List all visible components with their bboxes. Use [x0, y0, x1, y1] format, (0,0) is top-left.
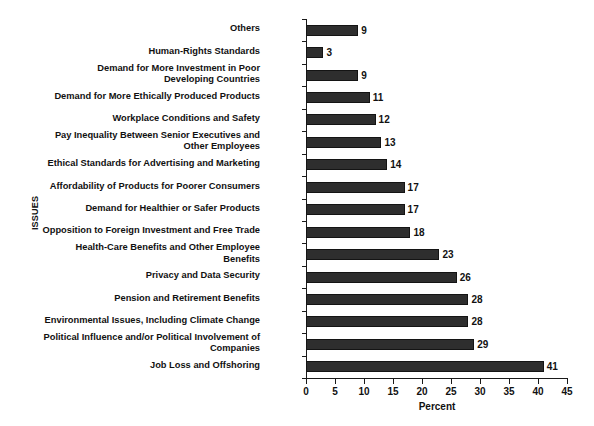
bar: [306, 294, 468, 305]
x-axis-title: Percent: [419, 401, 456, 412]
bar: [306, 227, 410, 238]
category-label: Human-Rights Standards: [0, 46, 260, 58]
y-tick: [302, 266, 306, 267]
bar-value-label: 26: [460, 272, 471, 283]
bar-value-label: 17: [408, 182, 419, 193]
y-tick: [302, 86, 306, 87]
x-tick: [451, 379, 452, 384]
y-tick: [302, 356, 306, 357]
y-tick: [302, 288, 306, 289]
x-tick: [393, 379, 394, 384]
category-label-line: Health-Care Benefits and Other Employee: [0, 242, 260, 254]
bar: [306, 159, 387, 170]
category-label: Workplace Conditions and Safety: [0, 113, 260, 125]
y-tick: [302, 221, 306, 222]
bar-value-label: 9: [361, 25, 367, 36]
x-tick-label: 5: [332, 386, 338, 397]
category-label-line: Pension and Retirement Benefits: [0, 293, 260, 305]
x-axis-line: [306, 378, 568, 379]
bar: [306, 137, 381, 148]
bar-value-label: 23: [442, 249, 453, 260]
bar-value-label: 11: [373, 92, 384, 103]
bar: [306, 114, 376, 125]
bar-value-label: 17: [408, 204, 419, 215]
category-label-line: Demand for More Investment in Poor: [0, 63, 260, 75]
x-tick: [509, 379, 510, 384]
y-tick: [302, 19, 306, 20]
bar-value-label: 18: [413, 227, 424, 238]
y-tick: [302, 41, 306, 42]
bar-value-label: 14: [390, 159, 401, 170]
bar-value-label: 28: [471, 294, 482, 305]
x-tick: [422, 379, 423, 384]
category-label-line: Privacy and Data Security: [0, 270, 260, 282]
category-label-line: Other Employees: [0, 141, 260, 153]
y-tick: [302, 243, 306, 244]
bar-value-label: 12: [379, 114, 390, 125]
bar: [306, 92, 370, 103]
y-tick: [302, 199, 306, 200]
category-label-line: Political Influence and/or Political Inv…: [0, 332, 260, 344]
bar: [306, 70, 358, 81]
category-label: Demand for Healthier or Safer Products: [0, 203, 260, 215]
category-label: Opposition to Foreign Investment and Fre…: [0, 225, 260, 237]
bar: [306, 272, 457, 283]
category-label-line: Workplace Conditions and Safety: [0, 113, 260, 125]
category-label-line: Environmental Issues, Including Climate …: [0, 315, 260, 327]
category-label-line: Human-Rights Standards: [0, 46, 260, 58]
category-label: Demand for More Investment in PoorDevelo…: [0, 63, 260, 86]
x-tick: [306, 379, 307, 384]
category-label-line: Pay Inequality Between Senior Executives…: [0, 130, 260, 142]
bar: [306, 361, 544, 372]
y-tick: [302, 131, 306, 132]
x-tick-label: 45: [561, 386, 572, 397]
category-label-line: Others: [0, 23, 260, 35]
category-label: Demand for More Ethically Produced Produ…: [0, 91, 260, 103]
bar-value-label: 41: [547, 361, 558, 372]
x-tick: [567, 379, 568, 384]
x-tick-label: 10: [358, 386, 369, 397]
x-tick-label: 0: [303, 386, 309, 397]
category-label: Privacy and Data Security: [0, 270, 260, 282]
category-label: Ethical Standards for Advertising and Ma…: [0, 158, 260, 170]
x-tick: [480, 379, 481, 384]
category-label-line: Benefits: [0, 254, 260, 266]
x-tick-label: 40: [532, 386, 543, 397]
x-tick: [364, 379, 365, 384]
category-label-line: Companies: [0, 343, 260, 355]
category-label: Environmental Issues, Including Climate …: [0, 315, 260, 327]
x-tick-label: 25: [445, 386, 456, 397]
category-label-line: Ethical Standards for Advertising and Ma…: [0, 158, 260, 170]
bar-value-label: 9: [361, 70, 367, 81]
bar: [306, 182, 405, 193]
category-label-line: Demand for More Ethically Produced Produ…: [0, 91, 260, 103]
category-label: Affordability of Products for Poorer Con…: [0, 181, 260, 193]
category-label-line: Job Loss and Offshoring: [0, 360, 260, 372]
x-tick-label: 30: [474, 386, 485, 397]
x-tick-label: 35: [503, 386, 514, 397]
category-label: Pay Inequality Between Senior Executives…: [0, 130, 260, 153]
bar: [306, 204, 405, 215]
category-label: Others: [0, 23, 260, 35]
category-label: Health-Care Benefits and Other EmployeeB…: [0, 242, 260, 265]
bar: [306, 25, 358, 36]
category-label-line: Opposition to Foreign Investment and Fre…: [0, 225, 260, 237]
y-tick: [302, 311, 306, 312]
bar-value-label: 28: [471, 316, 482, 327]
category-label: Pension and Retirement Benefits: [0, 293, 260, 305]
category-label: Political Influence and/or Political Inv…: [0, 332, 260, 355]
x-tick: [538, 379, 539, 384]
y-tick: [302, 176, 306, 177]
y-tick: [302, 109, 306, 110]
bar: [306, 339, 474, 350]
x-tick-label: 20: [416, 386, 427, 397]
category-label-line: Affordability of Products for Poorer Con…: [0, 181, 260, 193]
category-label: Job Loss and Offshoring: [0, 360, 260, 372]
bar: [306, 47, 323, 58]
y-tick: [302, 333, 306, 334]
category-label-line: Demand for Healthier or Safer Products: [0, 203, 260, 215]
bar: [306, 316, 468, 327]
bar-value-label: 3: [326, 47, 332, 58]
category-label-line: Developing Countries: [0, 74, 260, 86]
x-tick: [335, 379, 336, 384]
